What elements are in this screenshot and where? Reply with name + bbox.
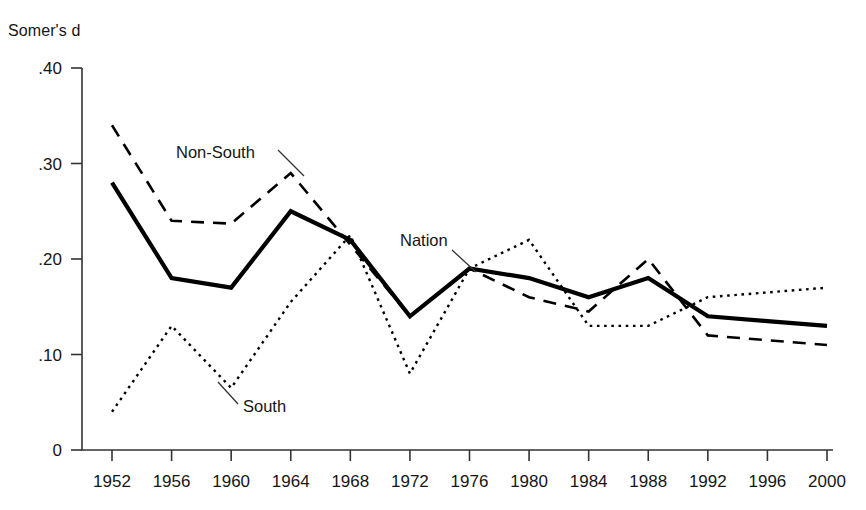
annotation-leader-line [218, 382, 238, 404]
data-series-group [112, 125, 827, 412]
series-label-non-south: Non-South [176, 143, 255, 161]
x-tick-label: 1960 [212, 472, 250, 491]
y-tick-label: 0 [53, 441, 62, 460]
series-label-nation: Nation [400, 231, 448, 249]
x-axis-ticks: 1952195619601964196819721976198019841988… [93, 450, 846, 491]
x-tick-label: 1976 [451, 472, 489, 491]
y-tick-label: .20 [38, 250, 62, 269]
x-tick-label: 1992 [689, 472, 727, 491]
axis-lines [82, 68, 833, 450]
x-tick-label: 1952 [93, 472, 131, 491]
series-label-south: South [243, 397, 286, 415]
series-line-south [112, 235, 827, 412]
x-tick-label: 1964 [272, 472, 310, 491]
y-tick-label: .10 [38, 346, 62, 365]
y-tick-label: .40 [38, 59, 62, 78]
x-tick-label: 1980 [510, 472, 548, 491]
x-tick-label: 1972 [391, 472, 429, 491]
y-axis-ticks: .40.30.20.100 [38, 59, 82, 460]
annotation-leader-line [452, 250, 476, 272]
line-chart-plot: .40.30.20.100 19521956196019641968197219… [0, 0, 866, 510]
series-line-nation [112, 183, 827, 326]
x-tick-label: 2000 [808, 472, 846, 491]
y-tick-label: .30 [38, 155, 62, 174]
chart-container: Somer's d .40.30.20.100 1952195619601964… [0, 0, 866, 510]
x-tick-label: 1984 [570, 472, 608, 491]
axis-path [82, 68, 833, 450]
series-annotations: Non-SouthNationSouth [176, 143, 476, 415]
x-tick-label: 1996 [749, 472, 787, 491]
x-tick-label: 1956 [153, 472, 191, 491]
x-tick-label: 1988 [629, 472, 667, 491]
x-tick-label: 1968 [331, 472, 369, 491]
